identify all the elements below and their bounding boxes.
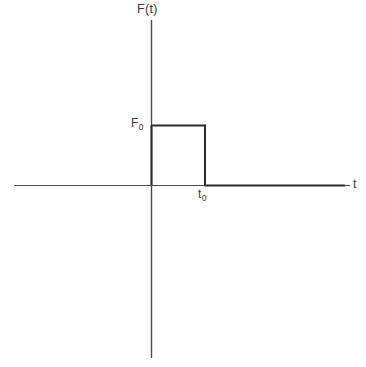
y-tick-label-f0: F0 — [131, 117, 143, 129]
f0-subscript: 0 — [139, 122, 144, 132]
x-tick-label-t0: t0 — [198, 188, 206, 200]
t0-base: t — [198, 187, 201, 201]
y-axis-label: F(t) — [137, 3, 158, 16]
x-axis-label: t — [353, 178, 356, 191]
step-function-figure: F(t) t F0 t0 — [0, 0, 366, 367]
plot-canvas — [0, 0, 366, 367]
f0-base: F — [131, 116, 138, 130]
t0-subscript: 0 — [202, 193, 207, 203]
